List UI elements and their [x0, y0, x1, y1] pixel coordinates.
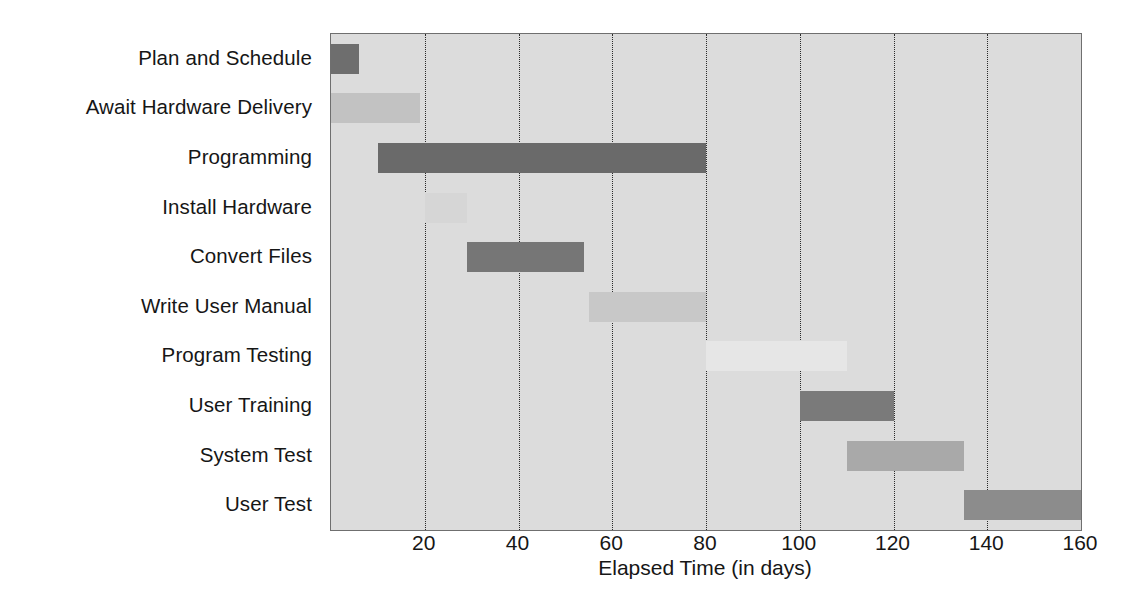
gridline-140 [987, 34, 988, 530]
gridline-80 [706, 34, 707, 530]
category-label: Plan and Schedule [0, 47, 312, 69]
category-label: Write User Manual [0, 295, 312, 317]
x-tick-label: 40 [506, 531, 529, 555]
gridline-60 [612, 34, 613, 530]
task-bar [847, 441, 964, 471]
category-axis: Plan and ScheduleAwait Hardware Delivery… [0, 33, 312, 529]
x-tick-label: 120 [875, 531, 910, 555]
gridline-40 [519, 34, 520, 530]
plot-area [330, 33, 1082, 531]
task-bar [800, 391, 894, 421]
category-label: Programming [0, 146, 312, 168]
x-tick-label: 60 [600, 531, 623, 555]
task-bar [589, 292, 706, 322]
category-label: User Test [0, 493, 312, 515]
x-axis-title: Elapsed Time (in days) [330, 556, 1080, 580]
category-label: System Test [0, 444, 312, 466]
task-bar [467, 242, 584, 272]
category-label: Await Hardware Delivery [0, 96, 312, 118]
category-label: Program Testing [0, 344, 312, 366]
task-bar [331, 93, 420, 123]
task-bar [425, 193, 467, 223]
gridline-20 [425, 34, 426, 530]
category-label: Convert Files [0, 245, 312, 267]
category-label: User Training [0, 394, 312, 416]
gridline-100 [800, 34, 801, 530]
task-bar [964, 490, 1081, 520]
gantt-chart: Plan and ScheduleAwait Hardware Delivery… [0, 0, 1148, 600]
x-tick-label: 100 [781, 531, 816, 555]
x-tick-label: 140 [969, 531, 1004, 555]
category-label: Install Hardware [0, 196, 312, 218]
x-tick-label: 80 [693, 531, 716, 555]
task-bar [706, 341, 847, 371]
task-bar [378, 143, 706, 173]
x-tick-label: 20 [412, 531, 435, 555]
task-bar [331, 44, 359, 74]
x-tick-label: 160 [1062, 531, 1097, 555]
